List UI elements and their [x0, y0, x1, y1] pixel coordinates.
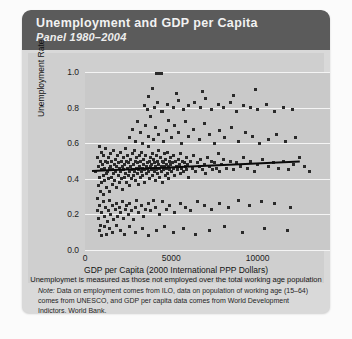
scatter-point	[103, 179, 106, 182]
scatter-point	[157, 149, 160, 152]
scatter-point	[96, 156, 99, 159]
scatter-point	[292, 163, 295, 166]
scatter-point	[246, 167, 249, 170]
scatter-point	[218, 202, 221, 205]
scatter-point	[166, 151, 169, 154]
scatter-point	[173, 211, 176, 214]
scatter-point	[136, 120, 139, 123]
scatter-point	[140, 151, 143, 154]
scatter-point	[230, 126, 233, 129]
scatter-point	[201, 90, 204, 93]
scatter-point	[172, 106, 175, 109]
scatter-point	[273, 110, 276, 113]
scatter-point	[109, 152, 112, 155]
scatter-point	[184, 120, 187, 123]
scatter-point	[100, 151, 103, 154]
scatter-point	[201, 168, 204, 171]
scatter-point	[147, 145, 150, 148]
scatter-point	[108, 199, 111, 202]
scatter-point	[177, 131, 180, 134]
scatter-point	[153, 106, 156, 109]
scatter-point	[128, 202, 131, 205]
scatter-point	[151, 174, 154, 177]
scatter-point	[131, 128, 134, 131]
scatter-point	[237, 140, 240, 143]
scatter-point	[258, 142, 261, 145]
scatter-point	[182, 108, 185, 111]
scatter-point	[154, 126, 157, 129]
scatter-point	[210, 208, 213, 211]
scatter-point	[284, 140, 287, 143]
scatter-point	[122, 217, 125, 220]
scatter-point	[282, 106, 285, 109]
scatter-point	[119, 229, 122, 232]
figure-header: Unemployment and GDP per Capita Panel 19…	[22, 10, 330, 50]
scatter-point	[138, 154, 141, 157]
scatter-point	[140, 204, 143, 207]
scatter-point	[144, 124, 147, 127]
scatter-point	[144, 154, 147, 157]
scatter-point	[294, 136, 297, 139]
scatter-point	[192, 154, 195, 157]
scatter-point	[97, 217, 100, 220]
scatter-point	[155, 229, 158, 232]
scatter-point	[227, 206, 230, 209]
scatter-point	[115, 224, 118, 227]
scatter-point	[275, 133, 278, 136]
scatter-point	[120, 160, 123, 163]
scatter-point	[177, 158, 180, 161]
scatter-point	[127, 213, 130, 216]
scatter-point	[185, 156, 188, 159]
scatter-point	[102, 193, 105, 196]
x-axis-note: Unemploymet is measured as those not emp…	[28, 275, 324, 284]
scatter-point	[289, 206, 292, 209]
scatter-point	[199, 106, 202, 109]
scatter-point	[116, 215, 119, 218]
scatter-point	[152, 158, 155, 161]
scatter-point	[232, 168, 235, 171]
scatter-point	[146, 108, 149, 111]
scatter-point	[173, 124, 176, 127]
scatter-point	[166, 172, 169, 175]
scatter-point	[143, 181, 146, 184]
gridline	[85, 250, 330, 251]
scatter-point	[152, 138, 155, 141]
scatter-point	[172, 231, 175, 234]
scatter-point	[123, 233, 126, 236]
scatter-point	[177, 99, 180, 102]
scatter-point	[218, 129, 221, 132]
scatter-point	[180, 142, 183, 145]
scatter-point	[112, 218, 115, 221]
scatter-point	[198, 138, 201, 141]
scatter-point	[277, 167, 280, 170]
scatter-point	[142, 215, 145, 218]
scatter-point	[133, 149, 136, 152]
scatter-point	[131, 152, 134, 155]
plot-area	[85, 72, 330, 250]
scatter-point	[111, 231, 114, 234]
scatter-point	[239, 165, 242, 168]
scatter-point	[157, 133, 160, 136]
gridline	[85, 214, 330, 215]
x-tick-label: 0	[55, 253, 115, 263]
scatter-point	[141, 142, 144, 145]
scatter-point	[105, 233, 108, 236]
scatter-point	[119, 151, 122, 154]
scatter-point	[199, 158, 202, 161]
scatter-point	[208, 133, 211, 136]
scatter-point	[102, 154, 105, 157]
scatter-point	[124, 208, 127, 211]
x-axis-label: GDP per Capita (2000 International PPP D…	[28, 265, 324, 275]
scatter-point	[112, 149, 115, 152]
scatter-point	[147, 95, 150, 98]
scatter-point	[128, 136, 131, 139]
scatter-point	[121, 200, 124, 203]
scatter-point	[265, 103, 268, 106]
scatter-point	[110, 160, 113, 163]
scatter-point	[156, 101, 159, 104]
scatter-point	[152, 199, 155, 202]
scatter-point	[128, 225, 131, 228]
scatter-point	[204, 172, 207, 175]
scatter-point	[229, 101, 232, 104]
scatter-point	[118, 206, 121, 209]
